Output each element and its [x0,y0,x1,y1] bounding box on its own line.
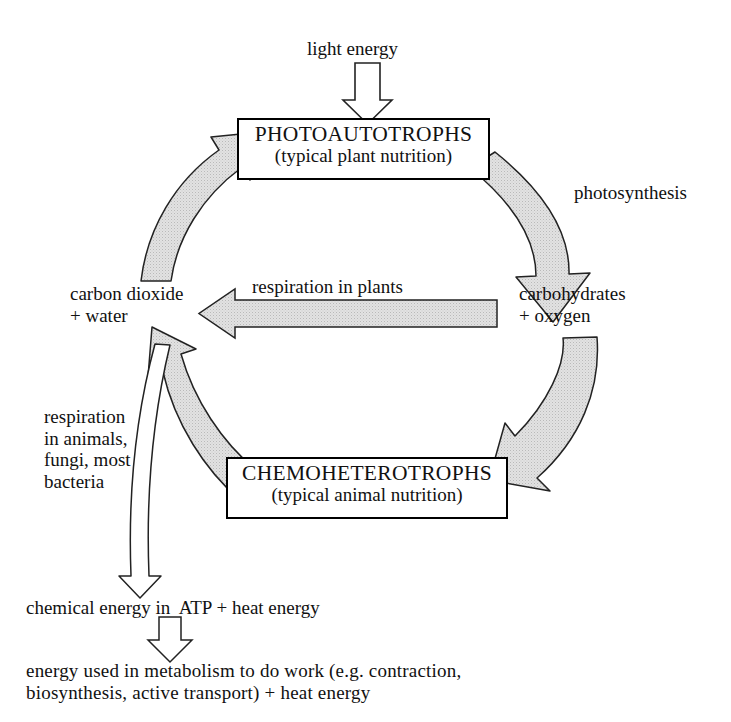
label-carbohydrates: carbohydrates + oxygen [519,283,626,326]
box-chemoheterotrophs[interactable]: CHEMOHETEROTROPHS (typical animal nutrit… [226,457,508,519]
label-light-energy: light energy [307,38,398,60]
chemoheterotrophs-subheading: (typical animal nutrition) [228,485,506,505]
light-energy-arrow [343,63,392,124]
label-respiration-in-animals: respiration in animals, fungi, most bact… [44,406,131,493]
label-energy-used: energy used in metabolism to do work (e.… [26,660,461,703]
label-respiration-in-plants: respiration in plants [252,276,403,298]
label-photosynthesis: photosynthesis [574,182,687,204]
chemoheterotrophs-heading: CHEMOHETEROTROPHS [228,462,506,485]
label-carbon-dioxide: carbon dioxide + water [70,283,183,326]
label-chemical-energy: chemical energy in ATP + heat energy [26,597,320,619]
diagram-canvas: PHOTOAUTOTROPHS (typical plant nutrition… [0,0,731,722]
photoautotrophs-heading: PHOTOAUTOTROPHS [239,123,488,146]
box-photoautotrophs[interactable]: PHOTOAUTOTROPHS (typical plant nutrition… [237,118,490,180]
energy-used-arrow [148,617,192,662]
photoautotrophs-subheading: (typical plant nutrition) [239,146,488,166]
